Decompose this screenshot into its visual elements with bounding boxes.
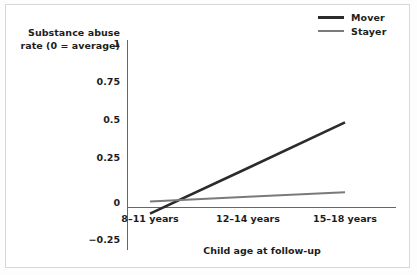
x-tick-label: 15–18 years xyxy=(300,213,390,224)
y-tick-label: 0.5 xyxy=(80,114,120,125)
x-tick-label: 8–11 years xyxy=(105,213,195,224)
chart-svg xyxy=(0,0,417,275)
y-tick-label: −0.25 xyxy=(80,234,120,245)
x-axis-title: Child age at follow-up xyxy=(127,245,397,256)
series-layer xyxy=(150,122,345,213)
y-tick-label: 0.75 xyxy=(80,76,120,87)
plot-area: 10.750.50.250−0.25 8–11 years12–14 years… xyxy=(0,0,417,275)
y-tick-label: 1 xyxy=(80,38,120,49)
chart-screenshot: Mover Stayer Substance abuse rate (0 = a… xyxy=(0,0,417,275)
y-tick-label: 0 xyxy=(80,197,120,208)
y-tick-label: 0.25 xyxy=(80,152,120,163)
series-line-stayer xyxy=(150,192,345,201)
x-tick-label: 12–14 years xyxy=(203,213,293,224)
